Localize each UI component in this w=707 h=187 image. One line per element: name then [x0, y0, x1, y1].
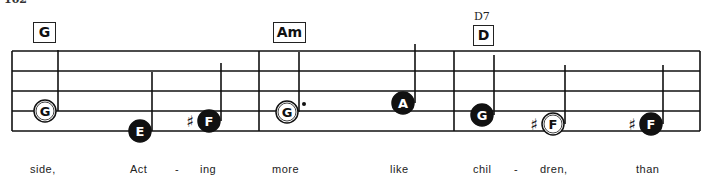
note-f-sharp: F♯	[186, 63, 221, 132]
note-letter: A	[398, 96, 408, 111]
note-letter: G	[40, 104, 51, 119]
sharp-icon: ♯	[530, 115, 538, 134]
note-letter: F	[647, 117, 656, 132]
note-letter: E	[136, 124, 145, 139]
music-staff: GEF♯GAGF♯F♯	[0, 0, 707, 187]
chord-box-d: D	[473, 25, 494, 46]
lyric-syllable: than	[636, 163, 659, 175]
lyric-hyphen: -	[514, 163, 518, 175]
lyric-syllable: side,	[30, 163, 56, 175]
sharp-icon: ♯	[628, 115, 636, 134]
note-letter: F	[205, 114, 214, 129]
note-f-sharp: F♯	[530, 65, 565, 135]
note-a: A	[392, 44, 415, 114]
note-letter: G	[282, 105, 293, 120]
lyric-syllable: more	[272, 163, 299, 175]
note-letter: G	[477, 108, 488, 123]
notes: GEF♯GAGF♯F♯	[34, 44, 663, 142]
lyric-syllable: ing	[200, 163, 216, 175]
lyric-syllable: dren,	[540, 163, 568, 175]
lyric-hyphen: -	[175, 163, 179, 175]
lyric-syllable: Act	[130, 163, 147, 175]
lyric-syllable: like	[390, 163, 409, 175]
staff-lines	[12, 51, 700, 131]
note-letter: F	[549, 117, 558, 132]
sharp-icon: ♯	[186, 112, 194, 131]
dot-icon	[302, 102, 306, 106]
chord-box-am: Am	[273, 22, 306, 43]
note-g: G	[34, 50, 58, 122]
note-e: E	[129, 72, 152, 142]
chord-alt-label: D7	[474, 10, 490, 23]
lyric-syllable: chil	[473, 163, 492, 175]
note-f-sharp: F♯	[628, 65, 663, 135]
note-g: G	[276, 52, 306, 123]
chord-box-g: G	[33, 22, 56, 43]
